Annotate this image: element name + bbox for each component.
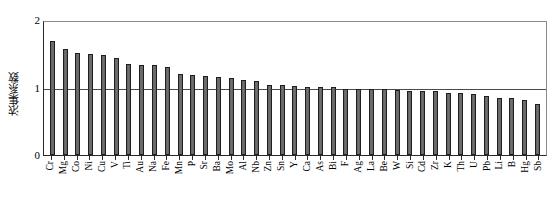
bar-slot xyxy=(518,22,531,155)
x-label-slot: P xyxy=(186,161,199,198)
bar xyxy=(318,87,323,155)
x-label-slot: Si xyxy=(404,161,417,198)
x-tick-label: Al xyxy=(239,161,249,171)
x-tick-label: Ba xyxy=(213,161,223,172)
x-label-slot: Li xyxy=(494,161,507,198)
bar-slot xyxy=(72,22,85,155)
x-tick-label: Y xyxy=(290,161,300,168)
x-tick-label: P xyxy=(188,161,198,166)
x-label-slot: Na xyxy=(148,161,161,198)
x-tick-label: W xyxy=(393,161,403,170)
tick-mark xyxy=(115,156,116,160)
tick-mark xyxy=(128,156,129,160)
x-label-slot: K xyxy=(443,161,456,198)
bar xyxy=(369,89,374,155)
bar-slot xyxy=(391,22,404,155)
bar xyxy=(75,53,80,155)
x-tick-label: V xyxy=(111,161,121,168)
tick-mark xyxy=(205,156,206,160)
x-tick-label: Co xyxy=(72,161,82,172)
x-label-slot: Zr xyxy=(430,161,443,198)
tick-mark xyxy=(320,156,321,160)
x-tick-label: La xyxy=(367,161,377,171)
bar xyxy=(241,80,246,155)
bar xyxy=(267,85,272,155)
x-tick-label: Bi xyxy=(329,161,339,170)
x-tick-label: Hg xyxy=(521,161,531,173)
bar xyxy=(139,65,144,155)
y-tick-label-2: 2 xyxy=(24,15,40,26)
x-label-slot: Be xyxy=(379,161,392,198)
tick-mark xyxy=(154,156,155,160)
x-label-slot: Zn xyxy=(263,161,276,198)
x-label-slot: U xyxy=(468,161,481,198)
bar-slot xyxy=(46,22,59,155)
plot-area xyxy=(43,21,547,156)
x-label-slot: Cd xyxy=(417,161,430,198)
bar-slot xyxy=(250,22,263,155)
bar-slot xyxy=(531,22,544,155)
x-label-slot: V xyxy=(109,161,122,198)
tick-mark xyxy=(231,156,232,160)
x-tick-label: As xyxy=(316,161,326,172)
x-label-slot: As xyxy=(314,161,327,198)
x-label-slot: Ba xyxy=(212,161,225,198)
tick-mark xyxy=(269,156,270,160)
x-label-slot: Cu xyxy=(96,161,109,198)
x-label-slot: Bi xyxy=(327,161,340,198)
bar-slot xyxy=(289,22,302,155)
bar xyxy=(331,87,336,155)
x-label-slot: Ni xyxy=(83,161,96,198)
bar xyxy=(152,65,157,155)
x-label-slot: Al xyxy=(237,161,250,198)
bar-slot xyxy=(378,22,391,155)
x-tick-label: Ca xyxy=(303,161,313,172)
x-tick-label: Zn xyxy=(265,161,275,172)
bar xyxy=(229,78,234,155)
bar-slot xyxy=(340,22,353,155)
tick-mark xyxy=(410,156,411,160)
x-label-slot: Pb xyxy=(481,161,494,198)
bar xyxy=(50,41,55,155)
x-axis-tick-labels: CrMgCoNiCuVTiAuNaFeMnPSrBaMoAlNbZnSnYCaA… xyxy=(43,161,547,198)
bar-slot xyxy=(199,22,212,155)
x-label-slot: Ti xyxy=(122,161,135,198)
x-tick-label: Ag xyxy=(355,161,365,173)
x-label-slot: Ca xyxy=(302,161,315,198)
x-label-slot: Y xyxy=(289,161,302,198)
bar-slot xyxy=(314,22,327,155)
tick-mark xyxy=(397,156,398,160)
tick-mark xyxy=(295,156,296,160)
bar-slot xyxy=(97,22,110,155)
tick-mark xyxy=(102,156,103,160)
bar-slot xyxy=(416,22,429,155)
bar-slot xyxy=(212,22,225,155)
bar-slot xyxy=(161,22,174,155)
x-tick-label: Cd xyxy=(419,161,429,172)
bar xyxy=(165,67,170,155)
x-tick-label: Ti xyxy=(124,161,134,169)
bar-slot xyxy=(174,22,187,155)
y-axis-tick-labels: 2 1 0 xyxy=(22,0,40,198)
bar xyxy=(471,94,476,155)
tick-mark xyxy=(282,156,283,160)
bar xyxy=(254,81,259,155)
bar-slot xyxy=(467,22,480,155)
x-tick-label: B xyxy=(508,161,518,167)
x-label-slot: Mo xyxy=(225,161,238,198)
bar xyxy=(356,89,361,155)
tick-mark xyxy=(436,156,437,160)
bar xyxy=(420,91,425,156)
bar xyxy=(114,58,119,155)
x-label-slot: Cr xyxy=(45,161,58,198)
bar-slot xyxy=(301,22,314,155)
tick-mark xyxy=(359,156,360,160)
tick-mark xyxy=(307,156,308,160)
x-tick-label: Zr xyxy=(432,161,442,170)
y-axis-title: 浓集系数 xyxy=(7,46,23,142)
bar xyxy=(126,64,131,155)
tick-mark xyxy=(333,156,334,160)
x-tick-label: Na xyxy=(149,161,159,172)
x-label-slot: Nb xyxy=(250,161,263,198)
x-tick-label: Sn xyxy=(278,161,288,171)
